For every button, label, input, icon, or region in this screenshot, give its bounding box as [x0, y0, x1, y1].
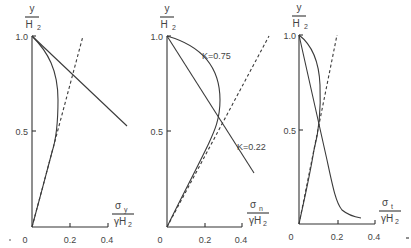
svg-text:2: 2	[395, 218, 399, 225]
svg-text:0.2: 0.2	[199, 235, 212, 245]
panel-left: y H 2 1.0 0.5 0 0.2 0.4 σ y γH 2	[9, 3, 134, 245]
panel-middle: y H 2 1.0 0.5 0 0.2 0.4 σ n γH 2 K=0.75 …	[150, 3, 269, 245]
svg-text:y: y	[297, 2, 302, 13]
svg-text:0.4: 0.4	[235, 235, 248, 245]
svg-text:0.2: 0.2	[64, 235, 77, 245]
decreasing-curve	[299, 35, 361, 218]
svg-text:2: 2	[128, 221, 132, 228]
svg-text:0.2: 0.2	[331, 232, 344, 242]
svg-text:0.4: 0.4	[368, 232, 381, 242]
svg-text:σ: σ	[115, 200, 122, 211]
svg-text:0.4: 0.4	[101, 235, 114, 245]
svg-text:H: H	[292, 18, 299, 29]
y-axis-label-den: H	[25, 19, 32, 30]
k075-label: K=0.75	[202, 51, 231, 61]
svg-text:y: y	[165, 3, 170, 14]
stress-distribution-figure: y H 2 1.0 0.5 0 0.2 0.4 σ y γH 2 y H 2	[0, 0, 411, 248]
svg-text:2: 2	[172, 24, 176, 31]
panel-right: y H 2 1.0 0.5 0 0.2 0.4 σ t γH 2	[283, 2, 409, 242]
svg-text:0: 0	[157, 235, 162, 245]
k075-curve	[167, 36, 220, 227]
svg-text:n: n	[259, 205, 263, 212]
svg-text:H: H	[160, 19, 167, 30]
svg-text:0: 0	[288, 232, 293, 242]
k022-label: K=0.22	[237, 142, 266, 152]
svg-text:2: 2	[37, 24, 41, 31]
svg-text:2: 2	[304, 23, 308, 30]
svg-text:t: t	[391, 203, 393, 210]
svg-text:1.0: 1.0	[283, 31, 296, 41]
svg-text:σ: σ	[382, 197, 389, 208]
svg-text:σ: σ	[250, 199, 257, 210]
svg-text:1.0: 1.0	[150, 32, 163, 42]
svg-text:2: 2	[263, 220, 267, 227]
svg-text:0: 0	[22, 235, 27, 245]
svg-text:0.5: 0.5	[283, 126, 296, 136]
svg-text:0.5: 0.5	[150, 127, 163, 137]
svg-text:γH: γH	[249, 215, 261, 226]
svg-text:y: y	[124, 206, 128, 214]
svg-text:γH: γH	[114, 216, 126, 227]
svg-text:γH: γH	[381, 213, 393, 224]
svg-text:0.5: 0.5	[15, 127, 28, 137]
y-axis-label-num: y	[30, 3, 35, 14]
svg-text:1.0: 1.0	[15, 32, 28, 42]
